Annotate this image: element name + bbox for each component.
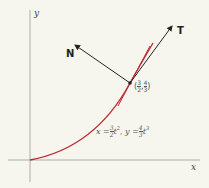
parametric-curve bbox=[30, 43, 153, 160]
point-marker bbox=[128, 81, 132, 85]
tangent-line bbox=[118, 46, 150, 106]
point-label: (32,43) bbox=[134, 80, 150, 93]
tangent-vector bbox=[130, 26, 172, 83]
tangent-vector-label: T bbox=[177, 25, 184, 36]
normal-vector-label: N bbox=[66, 48, 74, 59]
parametric-equation: x =32t2, y =43t3 bbox=[96, 125, 149, 138]
y-axis-label: y bbox=[34, 8, 39, 18]
normal-vector bbox=[75, 45, 130, 83]
x-axis-label: x bbox=[191, 162, 196, 172]
